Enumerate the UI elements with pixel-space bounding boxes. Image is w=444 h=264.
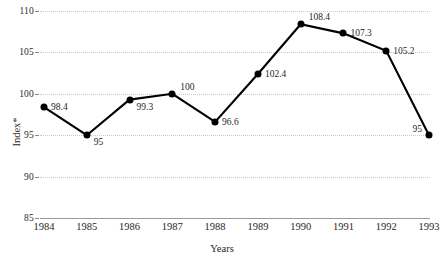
data-point-marker [383, 47, 390, 54]
gridline [40, 218, 430, 219]
data-point-label: 100 [180, 82, 194, 92]
data-point-marker [83, 132, 90, 139]
x-axis-tick-label: 1985 [76, 221, 97, 232]
x-axis-tick-label: 1992 [376, 221, 397, 232]
y-axis-tick-label: 110 [20, 6, 35, 16]
y-axis-tick-mark [35, 11, 39, 12]
y-axis-tick-mark [35, 135, 39, 136]
x-axis-tick-label: 1989 [247, 221, 268, 232]
y-axis-tick-mark [35, 52, 39, 53]
data-point-label: 99.3 [137, 102, 154, 112]
y-axis-title: Index* [11, 117, 22, 146]
y-axis-tick-label: 90 [24, 172, 34, 182]
x-axis-tick-label: 1990 [290, 221, 311, 232]
data-point-label: 95 [413, 124, 423, 134]
data-point-marker [297, 21, 304, 28]
data-point-marker [126, 96, 133, 103]
x-axis-tick-label: 1988 [205, 221, 226, 232]
data-point-marker [254, 70, 261, 77]
x-axis-tick-label: 1993 [419, 221, 440, 232]
series-line [40, 11, 430, 218]
y-axis-tick-label: 100 [19, 89, 34, 99]
plot-area: 859095100105110 98.49599.310096.6102.410… [40, 11, 430, 218]
y-axis-tick-label: 105 [19, 47, 34, 57]
data-point-marker [426, 132, 433, 139]
data-point-label: 108.4 [309, 12, 330, 22]
x-axis-tick-label: 1991 [333, 221, 354, 232]
data-point-label: 105.2 [393, 46, 414, 56]
data-point-label: 96.6 [222, 117, 239, 127]
y-axis-tick-label: 85 [24, 213, 34, 223]
y-axis-tick-label: 95 [24, 130, 34, 140]
data-point-label: 102.4 [265, 69, 286, 79]
y-axis-tick-mark [35, 94, 39, 95]
line-chart: Index* 859095100105110 98.49599.310096.6… [0, 0, 444, 264]
x-axis-tick-label: 1984 [34, 221, 55, 232]
y-axis-tick-mark [35, 177, 39, 178]
data-point-marker [169, 90, 176, 97]
data-point-label: 107.3 [350, 28, 371, 38]
x-axis-title: Years [0, 243, 444, 254]
y-axis-tick-mark [35, 218, 39, 219]
data-point-label: 95 [94, 137, 104, 147]
data-point-label: 98.4 [51, 102, 68, 112]
data-point-marker [340, 30, 347, 37]
data-point-marker [212, 118, 219, 125]
x-axis-tick-label: 1987 [162, 221, 183, 232]
data-point-marker [41, 104, 48, 111]
x-axis-tick-label: 1986 [119, 221, 140, 232]
